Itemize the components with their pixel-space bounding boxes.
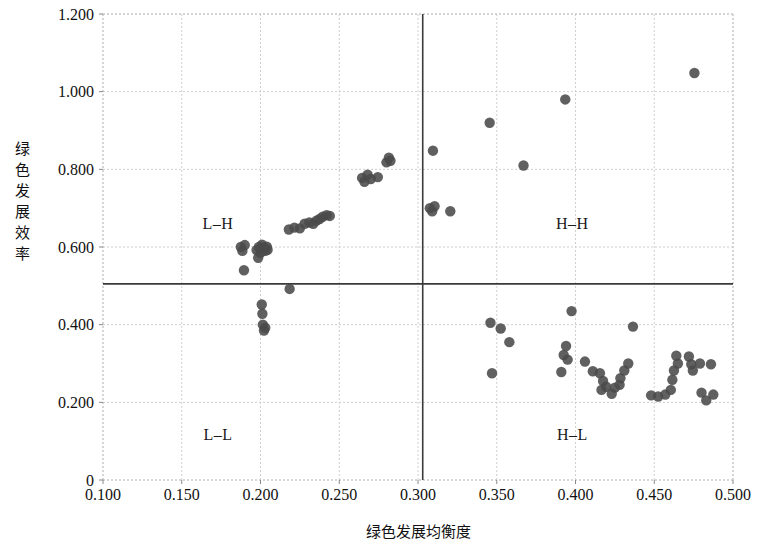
y-tick-label: 1.000: [58, 83, 94, 100]
x-axis-title-text: 绿色发展均衡度: [366, 523, 471, 541]
quadrant-label: L–L: [203, 426, 232, 443]
data-point: [260, 323, 270, 333]
data-point: [628, 321, 638, 331]
data-point: [484, 118, 494, 128]
data-point: [445, 206, 455, 216]
y-tick-label: 0.400: [58, 316, 94, 333]
quadrant-label: H–L: [557, 426, 588, 443]
data-point: [666, 385, 676, 395]
data-point: [689, 68, 699, 78]
quadrant-label: H–H: [556, 215, 589, 232]
data-point: [566, 306, 576, 316]
y-axis-title-char: 效: [15, 224, 30, 242]
y-axis-title-char: 发: [15, 182, 30, 200]
data-point: [623, 358, 633, 368]
data-point: [429, 201, 439, 211]
y-tick-label: 0: [86, 472, 94, 489]
data-point: [487, 368, 497, 378]
grid-lines: [103, 14, 733, 480]
data-point: [561, 341, 571, 351]
y-axis-tick-labels: 00.2000.4000.6000.8001.0001.200: [58, 6, 103, 489]
data-point: [284, 284, 294, 294]
x-tick-label: 0.400: [558, 486, 594, 503]
data-point: [385, 156, 395, 166]
data-point: [667, 375, 677, 385]
data-point: [325, 211, 335, 221]
data-point: [428, 145, 438, 155]
data-point: [485, 318, 495, 328]
data-point: [560, 94, 570, 104]
data-point: [518, 160, 528, 170]
y-axis-title: 绿色发展效率: [15, 140, 30, 263]
data-point: [257, 299, 267, 309]
data-point: [373, 172, 383, 182]
x-tick-label: 0.500: [715, 486, 751, 503]
data-point: [495, 323, 505, 333]
quadrant-label: L–H: [203, 215, 234, 232]
x-tick-label: 0.150: [164, 486, 200, 503]
y-tick-label: 0.600: [58, 239, 94, 256]
y-axis-title-char: 色: [15, 161, 30, 179]
data-points: [236, 68, 719, 406]
data-point: [708, 389, 718, 399]
data-point: [240, 240, 250, 250]
scatter-plot-svg: 0.1000.1500.2000.2500.3000.3500.4000.450…: [0, 0, 758, 548]
y-tick-label: 0.200: [58, 394, 94, 411]
y-axis-title-char: 率: [15, 245, 30, 263]
data-point: [556, 367, 566, 377]
data-point: [671, 351, 681, 361]
x-tick-label: 0.100: [85, 486, 121, 503]
data-point: [562, 354, 572, 364]
y-axis-title-char: 展: [15, 203, 30, 221]
x-tick-label: 0.450: [636, 486, 672, 503]
data-point: [580, 356, 590, 366]
y-tick-label: 1.200: [58, 6, 94, 23]
data-point: [257, 309, 267, 319]
x-tick-label: 0.200: [243, 486, 279, 503]
data-point: [695, 358, 705, 368]
x-axis-title: 绿色发展均衡度: [366, 523, 471, 541]
x-tick-label: 0.350: [479, 486, 515, 503]
data-point: [706, 359, 716, 369]
y-tick-label: 0.800: [58, 161, 94, 178]
x-tick-label: 0.300: [400, 486, 436, 503]
scatter-chart-figure: 0.1000.1500.2000.2500.3000.3500.4000.450…: [0, 0, 758, 548]
data-point: [504, 337, 514, 347]
data-point: [262, 245, 272, 255]
y-axis-title-char: 绿: [15, 140, 30, 158]
data-point: [239, 265, 249, 275]
x-tick-label: 0.250: [321, 486, 357, 503]
x-axis-tick-labels: 0.1000.1500.2000.2500.3000.3500.4000.450…: [85, 480, 751, 503]
